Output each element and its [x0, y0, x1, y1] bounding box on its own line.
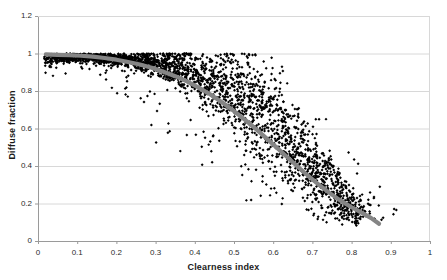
x-tick-label: 0.8	[346, 249, 357, 257]
y-tick-label: 0	[2, 237, 32, 245]
plot-canvas	[0, 0, 447, 280]
x-tick-label: 1	[428, 249, 432, 257]
x-tick-label: 0.5	[228, 249, 239, 257]
x-tick-label: 0.3	[150, 249, 161, 257]
scatter-chart: 00.20.40.60.811.200.10.20.30.40.50.60.70…	[0, 0, 447, 280]
x-tick-label: 0.4	[189, 249, 200, 257]
x-axis-title: Clearness index	[0, 262, 447, 272]
y-tick-label: 0.2	[2, 200, 32, 208]
y-axis-title: Diffuse fraction	[7, 75, 17, 175]
x-tick-label: 0.6	[268, 249, 279, 257]
y-tick-label: 1.2	[2, 12, 32, 20]
x-tick-label: 0.7	[307, 249, 318, 257]
x-tick-label: 0.1	[72, 249, 83, 257]
x-tick-label: 0.2	[111, 249, 122, 257]
x-tick-label: 0	[36, 249, 40, 257]
y-tick-label: 1	[2, 50, 32, 58]
x-tick-label: 0.9	[385, 249, 396, 257]
